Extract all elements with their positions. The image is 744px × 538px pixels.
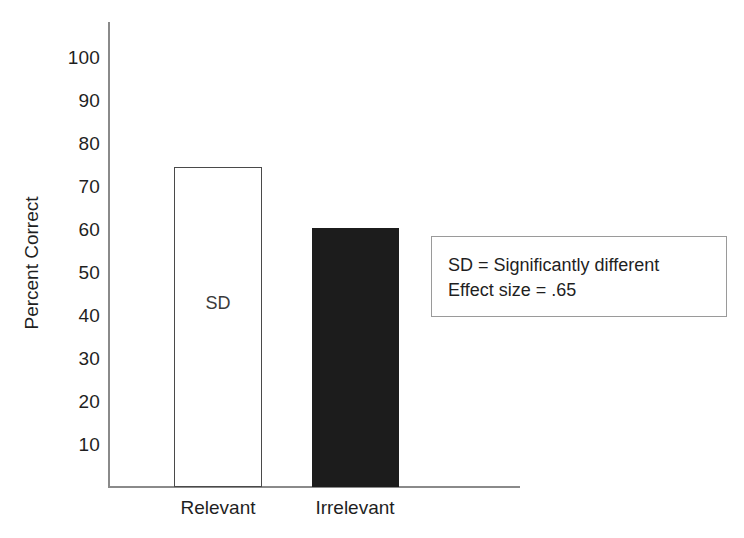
y-tick-label: 20: [0, 392, 100, 411]
annotation-line-sd-definition: SD = Significantly different: [448, 253, 726, 278]
y-tick-label: 100: [0, 48, 100, 67]
x-tick-label-relevant: Relevant: [148, 497, 288, 519]
y-tick-label-group: 100 90 80 70 60 50 40 30 20 10: [0, 0, 100, 538]
x-tick-label-irrelevant: Irrelevant: [285, 497, 425, 519]
y-tick-label: 90: [0, 91, 100, 110]
bar-chart-figure: Percent Correct 100 90 80 70 60 50 40 30…: [0, 0, 744, 538]
bar-relevant-inner-label: SD: [175, 293, 261, 314]
y-tick-label: 10: [0, 435, 100, 454]
annotation-box: SD = Significantly different Effect size…: [431, 236, 727, 317]
annotation-line-effect-size: Effect size = .65: [448, 278, 726, 303]
y-tick-label: 70: [0, 177, 100, 196]
y-tick-label: 50: [0, 263, 100, 282]
y-tick-label: 30: [0, 349, 100, 368]
y-tick-label: 80: [0, 134, 100, 153]
y-tick-label: 60: [0, 220, 100, 239]
y-tick-label: 40: [0, 306, 100, 325]
bar-relevant: SD: [174, 167, 262, 487]
bar-irrelevant: [312, 228, 399, 487]
y-axis-line: [108, 22, 110, 487]
